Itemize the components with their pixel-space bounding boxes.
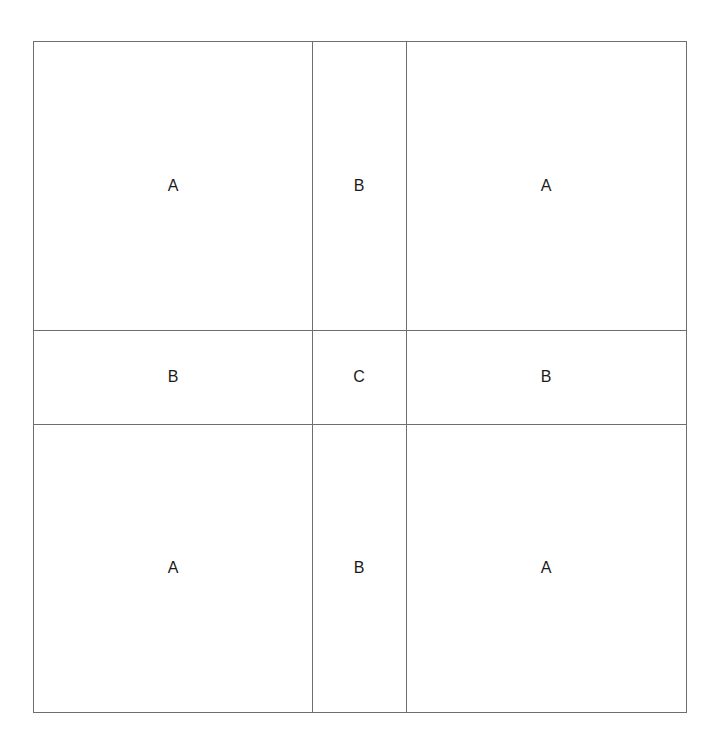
cell-middle-left: B	[34, 330, 312, 424]
cell-middle-right: B	[406, 330, 686, 424]
cell-top-middle: B	[312, 42, 406, 330]
cell-top-left: A	[34, 42, 312, 330]
cell-bottom-left: A	[34, 424, 312, 712]
cell-center: C	[312, 330, 406, 424]
cell-label: C	[353, 368, 365, 386]
partition-grid: A B A B C B A B A	[33, 41, 687, 713]
cell-label: B	[541, 368, 552, 386]
cell-top-right: A	[406, 42, 686, 330]
cell-label: B	[168, 368, 179, 386]
cell-label: A	[541, 559, 552, 577]
cell-label: B	[354, 177, 365, 195]
cell-label: B	[354, 559, 365, 577]
cell-label: A	[168, 177, 179, 195]
cell-bottom-middle: B	[312, 424, 406, 712]
cell-bottom-right: A	[406, 424, 686, 712]
cell-label: A	[541, 177, 552, 195]
cell-label: A	[168, 559, 179, 577]
